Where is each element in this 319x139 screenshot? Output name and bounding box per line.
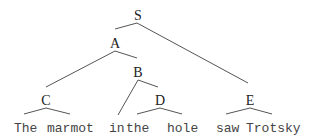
edge-d-hole [160,108,182,114]
edge-e-saw [226,108,250,114]
node-b: B [133,65,142,80]
leaf-word: The [14,121,37,136]
edge-b-d [138,80,158,87]
edge-s-a [115,23,137,29]
edge-a-c [46,51,115,87]
edge-s-e [137,23,248,83]
tree-nodes: S A B C D E [41,8,254,108]
leaf-word: hole [167,121,198,136]
node-d: D [155,93,165,108]
node-s: S [134,8,142,23]
edge-c-the [24,108,46,114]
leaf-word: the [126,121,149,136]
leaf-word: in [109,121,125,136]
tree-leaves: The marmot in the hole saw Trotsky [14,121,301,136]
tree-edges [24,23,272,115]
node-a: A [110,36,121,51]
edge-e-trotsky [250,108,272,114]
edge-b-in [118,80,138,115]
edge-a-b [115,51,137,58]
edge-d-the [137,108,160,114]
leaf-word: Trotsky [246,121,301,136]
parse-tree: S A B C D E The marmot in the hole saw T… [0,0,319,139]
node-c: C [41,93,50,108]
leaf-word: saw [216,121,240,136]
edge-c-marmot [46,108,70,114]
leaf-word: marmot [47,121,94,136]
node-e: E [246,93,255,108]
